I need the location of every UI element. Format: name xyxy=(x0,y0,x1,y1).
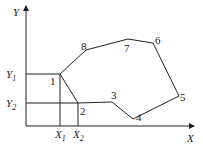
polygon-diagram: Y X Y1 Y2 X1 X2 1 2 3 4 5 6 7 8 xyxy=(0,0,203,148)
vertex-label-4: 4 xyxy=(136,111,142,123)
vertex-label-3: 3 xyxy=(111,89,117,101)
y1-label: Y1 xyxy=(6,68,16,83)
x1-label: X1 xyxy=(54,128,66,143)
vertex-label-7: 7 xyxy=(124,42,130,54)
vertex-label-5: 5 xyxy=(180,91,186,103)
x-axis-label: X xyxy=(186,132,195,144)
vertex-label-1: 1 xyxy=(50,75,56,87)
y2-label: Y2 xyxy=(6,97,16,112)
x2-label: X2 xyxy=(72,128,84,143)
vertex-label-8: 8 xyxy=(81,40,87,52)
vertex-label-2: 2 xyxy=(80,105,86,117)
y-axis-label: Y xyxy=(13,6,21,18)
vertex-label-6: 6 xyxy=(155,34,161,46)
